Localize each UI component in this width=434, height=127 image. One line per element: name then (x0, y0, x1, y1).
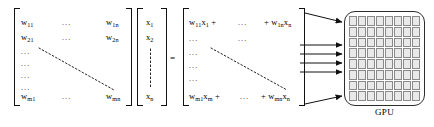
gpu-core-cell (403, 91, 411, 101)
gpu-core-cell (367, 91, 375, 101)
gpu-core-cell (403, 16, 411, 26)
gpu-core-cell (394, 81, 402, 91)
gpu-core-cell (403, 27, 411, 37)
matrix-gpu-diagram: w11 w21 ... ... ... ... wm1 ... ... ... … (0, 0, 434, 127)
gpu-core-cell (394, 48, 402, 58)
gpu-core-cell (349, 81, 357, 91)
gpu-core-cell (358, 48, 366, 58)
gpu-core-cell (394, 16, 402, 26)
gpu-core-cell (358, 81, 366, 91)
gpu-core-cell (394, 27, 402, 37)
gpu-core-cell (367, 70, 375, 80)
gpu-core-cell (385, 91, 393, 101)
gpu-core-cell (412, 70, 420, 80)
gpu-core-cell (367, 16, 375, 26)
gpu-core-cell (385, 48, 393, 58)
gpu-core-cell (376, 48, 384, 58)
gpu-core-cell (403, 81, 411, 91)
gpu-label: GPU (344, 107, 425, 117)
gpu-core-cell (358, 16, 366, 26)
gpu-core-cell (376, 59, 384, 69)
gpu-core-cell (349, 48, 357, 58)
gpu-core-cell (376, 81, 384, 91)
gpu-core-cell (349, 70, 357, 80)
gpu-core-cell (394, 38, 402, 48)
gpu-core-cell (403, 59, 411, 69)
gpu-core-cell (358, 59, 366, 69)
gpu-core-cell (385, 81, 393, 91)
gpu-core-cell (394, 70, 402, 80)
gpu-core-cell (367, 81, 375, 91)
gpu-core-cell (412, 27, 420, 37)
gpu-block (344, 11, 425, 106)
gpu-core-cell (349, 16, 357, 26)
gpu-core-cell (376, 38, 384, 48)
gpu-core-cell (394, 59, 402, 69)
gpu-core-cell (385, 27, 393, 37)
gpu-core-cell (349, 38, 357, 48)
gpu-core-cell (385, 70, 393, 80)
gpu-core-grid (349, 16, 420, 101)
gpu-core-cell (376, 91, 384, 101)
gpu-core-cell (349, 59, 357, 69)
arrow-1 (305, 13, 342, 22)
gpu-core-cell (367, 59, 375, 69)
gpu-core-cell (349, 27, 357, 37)
gpu-core-cell (376, 70, 384, 80)
gpu-core-cell (358, 27, 366, 37)
gpu-core-cell (394, 91, 402, 101)
gpu-core-cell (358, 91, 366, 101)
gpu-core-cell (412, 91, 420, 101)
gpu-core-cell (412, 38, 420, 48)
gpu-core-cell (367, 48, 375, 58)
gpu-core-cell (358, 38, 366, 48)
gpu-core-cell (367, 27, 375, 37)
gpu-core-cell (412, 81, 420, 91)
gpu-core-cell (376, 27, 384, 37)
gpu-core-cell (385, 16, 393, 26)
gpu-core-cell (376, 16, 384, 26)
gpu-core-cell (385, 59, 393, 69)
gpu-core-cell (412, 16, 420, 26)
gpu-core-cell (412, 59, 420, 69)
arrow-6 (305, 96, 342, 104)
gpu-core-cell (349, 91, 357, 101)
gpu-core-cell (367, 38, 375, 48)
gpu-core-cell (385, 38, 393, 48)
gpu-core-cell (358, 70, 366, 80)
gpu-core-cell (403, 48, 411, 58)
gpu-core-cell (403, 70, 411, 80)
gpu-core-cell (403, 38, 411, 48)
gpu-core-cell (412, 48, 420, 58)
